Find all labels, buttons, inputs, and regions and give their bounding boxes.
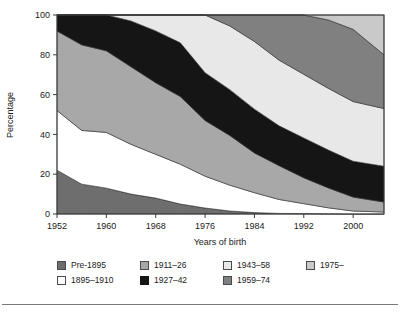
legend-label: 1943–58 bbox=[237, 261, 270, 270]
legend-swatch bbox=[57, 261, 66, 270]
x-tick-label: 1952 bbox=[47, 221, 67, 231]
x-tick-label: 1976 bbox=[195, 221, 215, 231]
legend-label: 1927–42 bbox=[154, 276, 187, 285]
area-bands-group bbox=[57, 15, 384, 214]
x-tick-label: 1992 bbox=[294, 221, 314, 231]
y-tick-label: 60 bbox=[40, 90, 50, 100]
legend-item[interactable]: 1943–58 bbox=[223, 261, 306, 270]
y-tick-label: 0 bbox=[45, 209, 50, 219]
y-axis-title: Percentage bbox=[5, 92, 15, 138]
legend-label: Pre-1895 bbox=[71, 261, 106, 270]
legend-item[interactable]: 1895–1910 bbox=[57, 276, 140, 285]
legend-swatch bbox=[57, 276, 66, 285]
legend-swatch bbox=[223, 261, 232, 270]
legend-item[interactable]: 1911–26 bbox=[140, 261, 223, 270]
y-tick-label: 80 bbox=[40, 50, 50, 60]
y-tick-label: 20 bbox=[40, 169, 50, 179]
legend-item[interactable]: 1975– bbox=[306, 261, 376, 270]
legend-item[interactable]: 1927–42 bbox=[140, 276, 223, 285]
legend-swatch bbox=[306, 261, 315, 270]
legend-swatch bbox=[223, 276, 232, 285]
legend-swatch bbox=[140, 276, 149, 285]
chart-legend: Pre-18951911–261943–581975–1895–19101927… bbox=[57, 258, 387, 288]
legend-label: 1895–1910 bbox=[71, 276, 114, 285]
legend-item[interactable]: 1959–74 bbox=[223, 276, 306, 285]
legend-swatch bbox=[140, 261, 149, 270]
y-tick-label: 100 bbox=[35, 10, 50, 20]
x-tick-label: 1960 bbox=[96, 221, 116, 231]
legend-item[interactable]: Pre-1895 bbox=[57, 261, 140, 270]
x-tick-label: 1984 bbox=[244, 221, 264, 231]
x-tick-label: 1968 bbox=[146, 221, 166, 231]
x-axis-title: Years of birth bbox=[194, 237, 247, 247]
figure-panel: 0204060801001952196019681976198419922000… bbox=[0, 0, 403, 317]
legend-label: 1911–26 bbox=[154, 261, 186, 270]
bottom-divider bbox=[2, 304, 398, 305]
y-tick-label: 40 bbox=[40, 130, 50, 140]
legend-label: 1975– bbox=[320, 261, 344, 270]
x-tick-label: 2000 bbox=[343, 221, 363, 231]
legend-label: 1959–74 bbox=[237, 276, 270, 285]
